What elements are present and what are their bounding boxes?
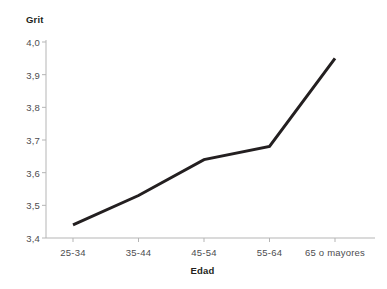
x-tick-label: 55-64	[257, 247, 282, 258]
x-tick-label: 35-44	[126, 247, 151, 258]
line-chart: Grit 4,03,93,83,73,63,53,4 25-3435-4445-…	[0, 0, 387, 289]
x-axis-ticks	[73, 238, 335, 242]
x-tick-label: 45-54	[191, 247, 216, 258]
grit-series-line	[73, 58, 335, 225]
x-tick-label: 65 o mayores	[305, 247, 365, 258]
x-axis-title: Edad	[0, 265, 387, 276]
x-tick-label: 25-34	[60, 247, 85, 258]
y-axis-ticks	[42, 42, 46, 238]
plot-area	[0, 0, 387, 289]
